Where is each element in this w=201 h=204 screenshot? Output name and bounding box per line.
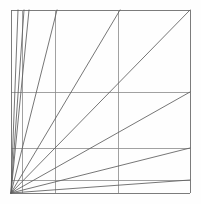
line-diagram-svg bbox=[0, 0, 201, 204]
figure-canvas bbox=[0, 0, 201, 204]
